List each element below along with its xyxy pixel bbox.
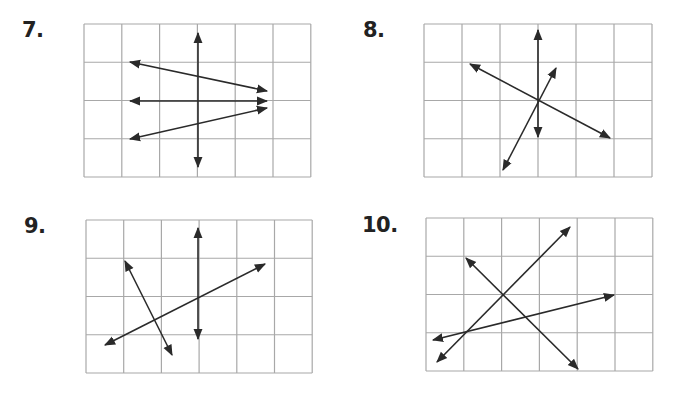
grid-7 <box>84 24 311 177</box>
grid-10 <box>426 218 653 371</box>
double-arrow-line <box>125 261 172 355</box>
double-arrow-line <box>105 264 265 345</box>
grids-canvas <box>0 0 676 398</box>
grid-8 <box>424 24 652 177</box>
grid-9 <box>86 220 312 373</box>
double-arrow-line <box>503 68 556 170</box>
